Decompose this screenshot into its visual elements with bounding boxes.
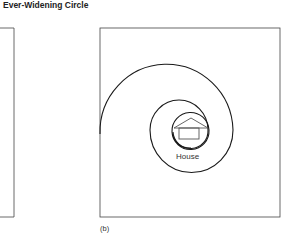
diagram-canvas: [0, 0, 291, 239]
spiral-path: [100, 64, 233, 172]
panel-b-caption: (b): [100, 224, 109, 233]
panel-a-frame: [0, 28, 14, 217]
house-label: House: [176, 152, 199, 161]
panel-b-frame: [100, 28, 280, 217]
ever-widening-spiral: [172, 112, 209, 149]
